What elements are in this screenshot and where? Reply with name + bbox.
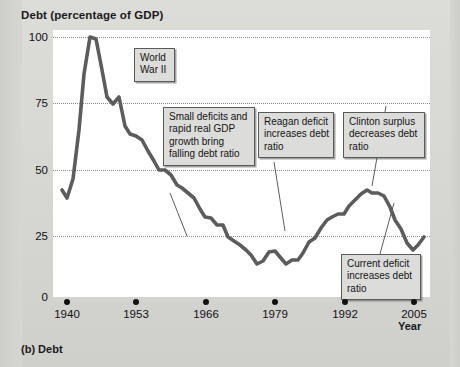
annotation-current-deficit: Current deficit increases debt ratio — [341, 254, 421, 300]
annotation-line: War II — [140, 64, 169, 76]
x-tick-label-1953: 1953 — [111, 308, 161, 320]
annotation-clinton-surplus: Clinton surplus decreases debt ratio — [343, 112, 425, 158]
annotation-line: ratio — [347, 283, 415, 295]
page-left-margin — [0, 0, 22, 367]
plot-area: World War II Small deficits and rapid re… — [53, 30, 430, 297]
annotation-line: Clinton surplus — [349, 116, 419, 128]
y-tick-label-75: 75 — [12, 97, 48, 109]
annotation-line: increases debt — [347, 270, 415, 282]
gridline-100 — [53, 37, 430, 38]
figure-panel-b-debt: Debt (percentage of GDP) 100 75 50 25 0 … — [0, 0, 460, 367]
annotation-line: Current deficit — [347, 258, 415, 270]
gridline-25 — [53, 236, 430, 237]
gridline-75 — [53, 103, 430, 104]
x-tick-dot-1940 — [64, 299, 70, 305]
annotation-line: growth bring — [169, 136, 249, 148]
annotation-line: falling debt ratio — [169, 148, 249, 160]
annotation-line: Small deficits and — [169, 111, 249, 123]
x-axis-title: Year — [398, 320, 421, 332]
annotation-line: decreases debt — [349, 128, 419, 140]
x-tick-label-1966: 1966 — [181, 308, 231, 320]
x-tick-label-1940: 1940 — [42, 308, 92, 320]
leader-line-postwar-decline — [170, 193, 187, 236]
annotation-line: ratio — [264, 141, 328, 153]
x-tick-label-2005: 2005 — [389, 308, 439, 320]
page-right-margin — [450, 0, 460, 367]
y-tick-label-0: 0 — [12, 291, 48, 303]
gridline-50 — [53, 170, 430, 171]
annotation-reagan-deficit: Reagan deficit increases debt ratio — [258, 112, 334, 158]
chart-title: Debt (percentage of GDP) — [21, 9, 163, 21]
x-tick-dot-1992 — [342, 299, 348, 305]
annotation-line: World — [140, 52, 169, 64]
x-tick-label-1979: 1979 — [250, 308, 300, 320]
annotation-line: Reagan deficit — [264, 116, 328, 128]
leader-line-reagan-deficit — [274, 162, 285, 231]
x-tick-dot-1953 — [133, 299, 139, 305]
annotation-line: increases debt — [264, 128, 328, 140]
panel-caption: (b) Debt — [21, 343, 63, 355]
x-tick-dot-2005 — [411, 299, 417, 305]
y-tick-label-100: 100 — [12, 31, 48, 43]
annotation-postwar-decline: Small deficits and rapid real GDP growth… — [163, 107, 255, 166]
y-tick-label-25: 25 — [12, 230, 48, 242]
leader-line-current-deficit — [378, 203, 394, 261]
x-tick-dot-1979 — [272, 299, 278, 305]
annotation-line: ratio — [349, 141, 419, 153]
y-tick-label-50: 50 — [12, 164, 48, 176]
x-tick-label-1992: 1992 — [320, 308, 370, 320]
annotation-world-war-ii: World War II — [134, 48, 175, 82]
x-tick-dot-1966 — [203, 299, 209, 305]
annotation-line: rapid real GDP — [169, 123, 249, 135]
